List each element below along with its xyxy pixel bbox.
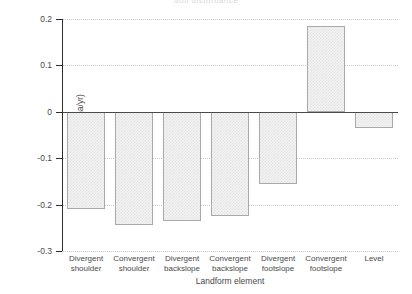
x-axis-tick-label: Convergentbackslope (206, 254, 254, 274)
gridline (62, 251, 398, 252)
bar (67, 112, 104, 209)
bar (115, 112, 152, 226)
x-axis-tick-label: Divergentbackslope (158, 254, 206, 274)
x-axis-title: Landform element (62, 276, 398, 286)
y-axis-tick-label: 0.2 (0, 14, 52, 24)
y-axis-tick-label: -0.1 (0, 153, 52, 163)
bar (259, 112, 296, 184)
x-axis-tick-label: Divergentshoulder (62, 254, 110, 274)
y-axis-tick-label: -0.2 (0, 200, 52, 210)
bar (211, 112, 248, 216)
y-axis-tick-label: 0.1 (0, 60, 52, 70)
x-axis-tick-label: Convergentfootslope (302, 254, 350, 274)
bar-chart: Soil disturbance 0.20.10-0.1-0.2-0.3 Soi… (0, 0, 412, 294)
bar-series (62, 19, 398, 251)
y-axis-line (62, 19, 63, 251)
y-axis-tick (56, 251, 62, 252)
x-axis-tick-label: Convergentshoulder (110, 254, 158, 274)
y-axis-tick-label: -0.3 (0, 246, 52, 256)
x-axis-tick-labels: DivergentshoulderConvergentshoulderDiver… (62, 254, 398, 278)
bar (307, 26, 344, 112)
plot-area (62, 19, 398, 251)
zero-baseline (62, 112, 398, 113)
bar (163, 112, 200, 221)
y-axis-tick-label: 0 (0, 107, 52, 117)
bar (355, 112, 392, 128)
x-axis-tick-label: Level (350, 254, 398, 264)
x-axis-tick-label: Divergentfootslope (254, 254, 302, 274)
